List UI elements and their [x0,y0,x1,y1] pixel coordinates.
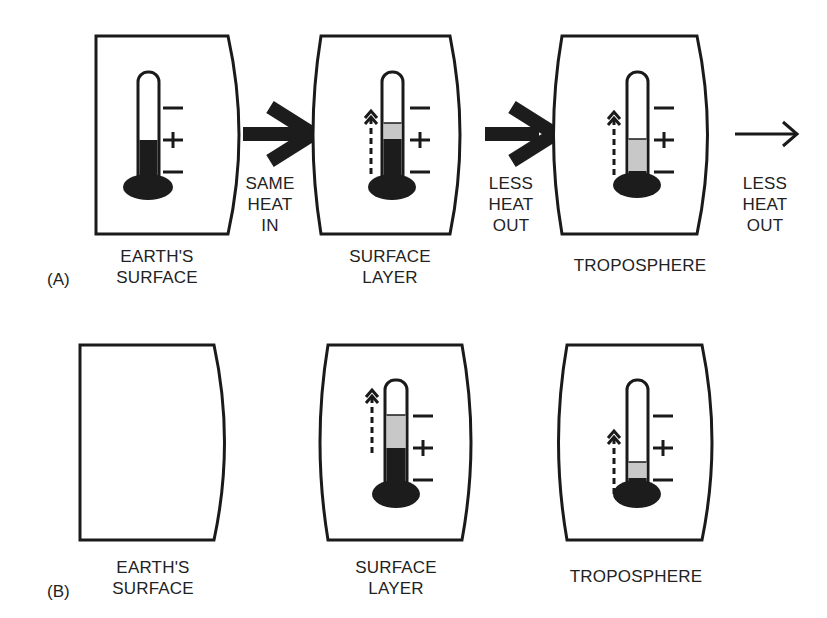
panel-surface-layer-a [313,36,460,234]
label-line: HEAT [730,194,800,215]
label-line: HEAT [476,194,546,215]
row-b [80,345,712,540]
label-line: SURFACE [98,578,208,599]
label-line: EARTH'S [102,246,212,267]
label-line: OUT [730,215,800,236]
label-line: LAYER [330,267,450,288]
arrow-less-heat-out-thin-icon [735,122,797,146]
arrow-less-heat-out-icon [485,107,555,161]
row-b-tag: (B) [47,582,70,602]
label-earths-surface-a: EARTH'S SURFACE [102,246,212,288]
panel-surface-layer-b [320,345,471,540]
label-troposphere-b: TROPOSPHERE [566,566,706,587]
label-line: LAYER [336,578,456,599]
label-same-heat-in: SAME HEAT IN [235,173,305,236]
label-line: SURFACE [330,246,450,267]
panel-earths-surface-b [80,345,225,540]
label-line: LESS [730,173,800,194]
label-surface-layer-b: SURFACE LAYER [336,557,456,599]
label-line: HEAT [235,194,305,215]
panel-earths-surface-a [96,36,239,234]
row-a [96,36,797,234]
label-less-heat-out-1: LESS HEAT OUT [476,173,546,236]
label-surface-layer-a: SURFACE LAYER [330,246,450,288]
label-line: SURFACE [102,267,212,288]
label-earths-surface-b: EARTH'S SURFACE [98,557,208,599]
label-line: SAME [235,173,305,194]
label-line: OUT [476,215,546,236]
label-line: EARTH'S [98,557,208,578]
label-troposphere-a: TROPOSPHERE [570,255,710,276]
label-line: SURFACE [336,557,456,578]
label-line: IN [235,215,305,236]
label-line: LESS [476,173,546,194]
panel-troposphere-a [554,36,708,234]
row-a-tag: (A) [47,270,70,290]
panel-troposphere-b [559,345,713,540]
label-less-heat-out-2: LESS HEAT OUT [730,173,800,236]
heat-transfer-diagram [0,0,827,618]
arrow-same-heat-in-icon [243,107,313,161]
